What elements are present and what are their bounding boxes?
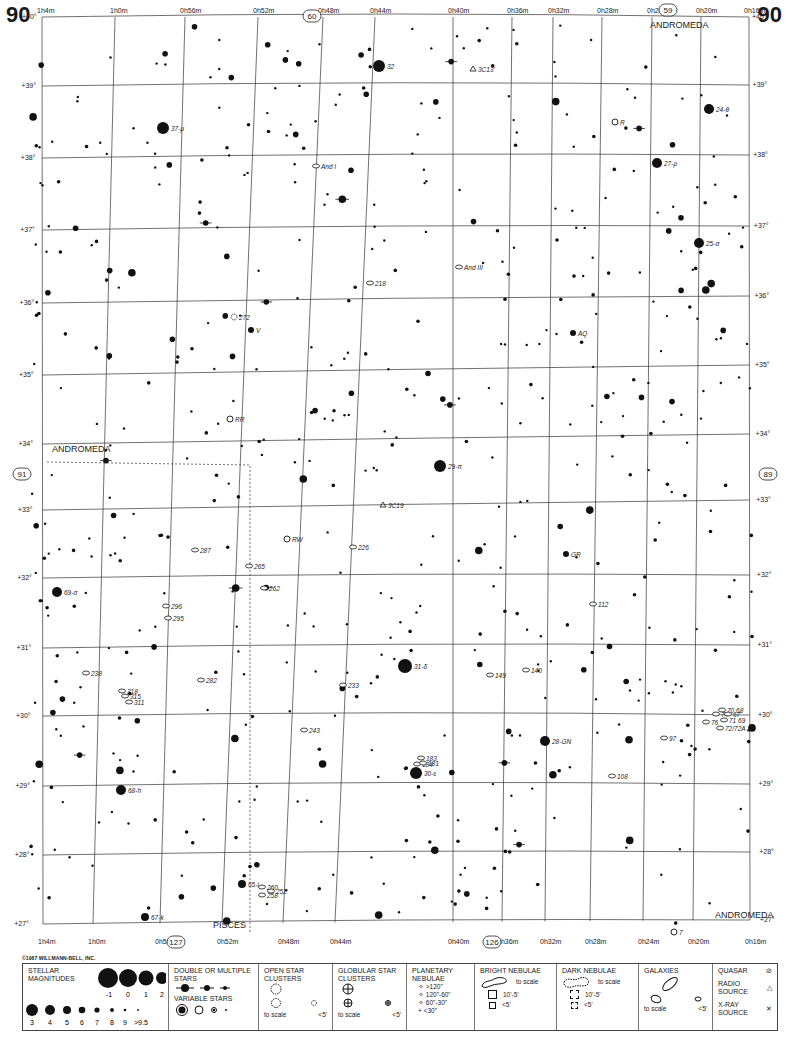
svg-text:+29°: +29° [15,782,30,789]
svg-text:4: 4 [48,1019,52,1026]
svg-text:69-σ: 69-σ [64,589,78,596]
svg-text:0h16m: 0h16m [745,938,767,945]
svg-text:1h4m: 1h4m [38,938,56,945]
legend-title: OPEN STAR CLUSTERS [264,967,327,983]
svg-text:1h0m: 1h0m [110,7,128,14]
svg-text:+39°: +39° [21,82,36,89]
svg-text:3C19: 3C19 [388,502,404,509]
sky-object-galaxy: 287 [192,547,212,554]
svg-text:+33°: +33° [18,506,33,513]
svg-text:272: 272 [238,314,250,321]
legend-label: to scale [338,1011,360,1019]
sky-object-radio: 3C13' [470,66,496,73]
adjacent-chart-link: 60 [303,10,321,22]
legend-title: BRIGHT NEBULAE [480,967,551,975]
svg-text:+39°: +39° [753,81,768,88]
axis-labels: 1h4m1h0m0h56m0h52m0h48m0h44m0h40m0h36m0h… [14,7,774,945]
svg-text:311: 311 [134,699,145,706]
svg-text:+38°: +38° [753,151,768,158]
sky-object-star: 37-μ [157,122,184,134]
sky-object-galaxy: 238 [83,670,103,677]
sky-object-galaxy: 258 [259,892,279,899]
svg-text:7: 7 [679,929,683,936]
sky-object-galaxy: 112 [590,601,609,608]
svg-text:97: 97 [669,735,677,742]
sky-object-star: 28-GN [540,736,571,746]
constellation-label: ANDROMEDA [52,444,111,454]
svg-text:+34°: +34° [18,440,33,447]
adjacent-chart-refs[interactable]: 60599189127126 [13,4,777,948]
svg-text:+30°: +30° [16,712,31,719]
svg-text:0h32m: 0h32m [548,7,570,14]
svg-text:27-ρ: 27-ρ [663,160,677,168]
quasar-label: QUASAR [718,967,748,975]
sky-object-variable-small: AQ [570,330,587,338]
sky-object-variable-small: V [248,327,261,334]
sky-object-galaxy: 295 [165,615,185,622]
svg-text:1h4m: 1h4m [37,7,55,14]
sky-object-star: 65-i [238,880,259,888]
svg-text:243: 243 [308,727,320,734]
svg-text:1: 1 [144,991,148,998]
globular-cluster-icon [338,983,402,1009]
sky-object-star: 68-h [116,785,141,795]
dashed-square-icon [571,1002,578,1009]
bright-nebula-icon [480,976,510,988]
sky-object-star: 24-θ [704,104,729,114]
legend-label: <5' [318,1011,327,1019]
legend-galaxies: GALAXIES to scale<5' [639,964,713,1030]
svg-text:29-π: 29-π [447,463,462,470]
sky-object-star: 27-ρ [652,158,677,168]
svg-text:+31°: +31° [17,644,32,651]
svg-text:0h48m: 0h48m [318,7,340,14]
legend-stellar-magnitudes: STELLAR MAGNITUDES -10 12 3456789>9.5 [23,964,169,1030]
sky-object-galaxy: 311 [126,699,145,706]
svg-text:+33°: +33° [756,496,771,503]
svg-text:+32°: +32° [757,571,772,578]
svg-text:72/72A: 72/72A [725,725,746,732]
constellation-label: PISCES [213,920,246,930]
xray-source-icon: ✕ [766,1005,772,1013]
svg-text:0h32m: 0h32m [540,938,562,945]
legend-title: GALAXIES [644,967,707,975]
sky-object-star: 29-π [434,460,462,472]
adjacent-chart-link: 89 [759,468,777,480]
sky-object-variable-small: GR [563,551,581,558]
sky-object-cluster: 272 [231,314,250,321]
planetary-size-2: ✧ 120"-60" [418,991,469,999]
svg-text:0h28m: 0h28m [585,938,607,945]
svg-text:91: 91 [18,470,27,479]
coordinate-grid [42,14,750,924]
double-star-icon [174,983,254,993]
labeled-objects: 323C13'37-μR24-θAnd I27-ρ25-σAnd III2182… [52,60,746,936]
svg-text:0h52m: 0h52m [253,7,275,14]
svg-text:68-h: 68-h [128,787,141,794]
svg-text:0h20m: 0h20m [696,7,718,14]
open-cluster-icon [264,983,328,1009]
svg-text:233: 233 [347,682,359,689]
svg-text:0h40m: 0h40m [448,7,470,14]
svg-text:37-μ: 37-μ [171,125,184,133]
svg-text:RR: RR [235,416,245,423]
sky-object-star: 31-δ [398,659,427,673]
square-icon [488,990,497,999]
svg-text:0h40m: 0h40m [448,938,470,945]
svg-text:AQ: AQ [577,330,587,338]
sky-object-variable: RW [284,536,304,543]
svg-text:0h48m: 0h48m [278,938,300,945]
sky-object-variable: R [612,119,625,126]
dark-nebula-icon [562,976,592,988]
sky-object-star: 69-σ [52,587,78,597]
svg-text:126: 126 [485,938,499,947]
svg-text:258: 258 [266,892,278,899]
radio-source-icon: △ [767,984,772,992]
legend-planetary-nebulae: PLANETARY NEBULAE ✧ >120" ✧ 120"-60" ✧ 6… [407,964,475,1030]
sky-object-variable: 7 [671,929,683,936]
sky-object-star: 67-k [141,913,164,921]
star-chart[interactable]: 323C13'37-μR24-θAnd I27-ρ25-σAnd III2182… [0,0,790,960]
svg-text:76: 76 [711,719,719,726]
svg-text:89: 89 [764,470,773,479]
planetary-size-4: + <30" [418,1007,469,1015]
svg-text:149: 149 [495,672,506,679]
svg-text:238: 238 [90,670,102,677]
